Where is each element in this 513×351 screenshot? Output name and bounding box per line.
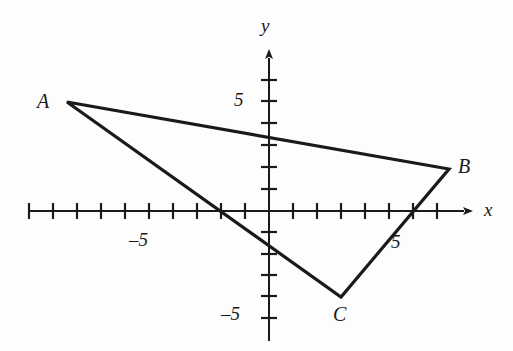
vertex-label-b: B	[458, 155, 470, 178]
vertex-label-a: A	[37, 90, 49, 113]
triangle-abc	[67, 102, 449, 297]
coordinate-plane-figure: x y –5 5 5 –5 A B C	[0, 0, 513, 351]
plot-canvas	[0, 0, 513, 351]
y-tick-label-negative-5: –5	[221, 303, 240, 325]
y-axis-label: y	[261, 15, 269, 37]
x-tick-label-positive-5: 5	[391, 231, 401, 253]
y-tick-label-positive-5: 5	[234, 89, 244, 111]
x-axis-label: x	[484, 199, 492, 221]
x-tick-label-negative-5: –5	[129, 229, 148, 251]
vertex-label-c: C	[333, 303, 346, 326]
